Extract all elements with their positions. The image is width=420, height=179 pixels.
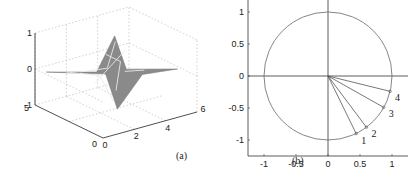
y-tick-label: 0: [239, 71, 244, 81]
mesh-line: [66, 72, 113, 101]
x-tick-label: 0: [102, 140, 107, 150]
z-tick-label: 1: [27, 28, 32, 38]
vector-label: 2: [371, 128, 376, 139]
surface-plot-a: -101050246: [24, 7, 206, 150]
x-tick-label: 2: [134, 131, 139, 141]
y-tick-label: -0.5: [228, 103, 244, 113]
x-tick-label: 0: [325, 159, 330, 169]
grid-line: [98, 88, 166, 121]
vector-label: 3: [389, 108, 394, 119]
x-tick-label: 4: [165, 123, 170, 133]
x-tick-label: -1: [260, 159, 268, 169]
grid-line: [35, 7, 129, 33]
x-tick-label: 6: [200, 104, 205, 114]
vector-1: [328, 76, 356, 134]
caption-a: (a): [176, 150, 187, 162]
figure: -101050246 (a) -1-0.500.5110.50-0.5-1123…: [0, 0, 420, 179]
vector-label: 1: [361, 135, 366, 146]
polar-vector-plot-b: -1-0.500.5110.50-0.5-11234: [228, 0, 408, 169]
grid-line: [35, 69, 103, 102]
y-tick-label: 5: [24, 103, 29, 113]
z-tick-label: 0: [27, 64, 32, 74]
y-tick-label: 0.5: [231, 39, 244, 49]
vector-label: 4: [395, 92, 400, 103]
y-tick-label: 0: [92, 139, 97, 149]
y-tick-label: 1: [239, 7, 244, 17]
y-tick-label: -1: [236, 135, 244, 145]
caption-b: (b): [292, 155, 304, 167]
vector-3: [328, 76, 384, 107]
grid-line: [129, 7, 197, 40]
x-tick-label: 1: [389, 159, 394, 169]
x-axis: [103, 112, 197, 138]
x-tick-label: 0.5: [354, 159, 367, 169]
y-axis: [35, 105, 103, 138]
